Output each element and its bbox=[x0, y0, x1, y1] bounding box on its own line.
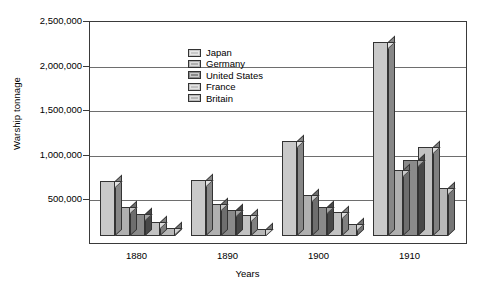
gridline bbox=[90, 111, 466, 112]
y-axis-tick-label: 2,500,000 bbox=[0, 15, 82, 26]
bar-front-face bbox=[373, 42, 388, 236]
x-axis-title: Years bbox=[0, 268, 495, 279]
bar-front-face bbox=[282, 141, 297, 236]
legend-swatch bbox=[188, 83, 201, 91]
legend-swatch bbox=[188, 94, 201, 102]
y-axis-tick-label: 2,000,000 bbox=[0, 60, 82, 71]
bar-side-face bbox=[130, 200, 137, 236]
legend-item: France bbox=[188, 81, 263, 92]
bar-side-face bbox=[388, 35, 395, 236]
bar bbox=[100, 181, 115, 236]
legend-label: France bbox=[206, 81, 236, 92]
x-axis-tick-label: 1910 bbox=[380, 250, 440, 261]
legend-swatch bbox=[188, 49, 201, 57]
y-axis-tick-label: 500,000 bbox=[0, 193, 82, 204]
bar bbox=[191, 180, 206, 236]
bar-front-face bbox=[100, 181, 115, 236]
gridline bbox=[90, 156, 466, 157]
x-axis-tick-label: 1900 bbox=[289, 250, 349, 261]
legend-label: United States bbox=[206, 70, 263, 81]
chart-legend: JapanGermanyUnited StatesFranceBritain bbox=[188, 47, 263, 104]
plot-area: JapanGermanyUnited StatesFranceBritain bbox=[89, 21, 467, 244]
bar-side-face bbox=[433, 140, 440, 236]
bar-side-face bbox=[297, 135, 304, 236]
legend-swatch bbox=[188, 60, 201, 68]
legend-item: Japan bbox=[188, 47, 263, 58]
x-axis-tick-label: 1890 bbox=[198, 250, 258, 261]
legend-item: Britain bbox=[188, 93, 263, 104]
legend-label: Germany bbox=[206, 58, 245, 69]
bar-front-face bbox=[191, 180, 206, 236]
gridline bbox=[90, 67, 466, 68]
legend-label: Britain bbox=[206, 93, 233, 104]
chart-figure: Warship tonnage Years 500,0001,000,0001,… bbox=[0, 0, 495, 292]
bar bbox=[373, 42, 388, 236]
y-axis-tick-label: 1,000,000 bbox=[0, 149, 82, 160]
bar bbox=[282, 141, 297, 236]
bar-side-face bbox=[327, 200, 334, 236]
legend-item: United States bbox=[188, 70, 263, 81]
y-axis-tick-label: 1,500,000 bbox=[0, 104, 82, 115]
legend-swatch bbox=[188, 71, 201, 79]
legend-item: Germany bbox=[188, 58, 263, 69]
legend-label: Japan bbox=[206, 47, 232, 58]
x-axis-tick-label: 1880 bbox=[107, 250, 167, 261]
